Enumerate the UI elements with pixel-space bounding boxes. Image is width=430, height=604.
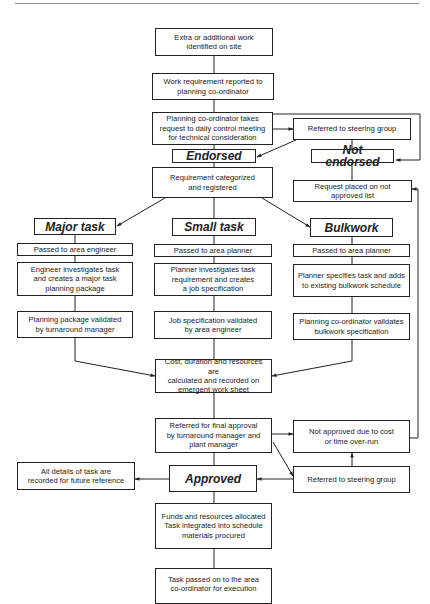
node-request-not-approved-list: Request placed on not approved list bbox=[293, 180, 412, 202]
node-referred-steering-top: Referred to steering group bbox=[293, 118, 411, 140]
node-passed-area-planner-small: Passed to area planner bbox=[154, 244, 272, 257]
node-planner-specifies: Planner specifies task and adds to exist… bbox=[293, 264, 410, 297]
node-planner-investigates: Planner investigates task requirement an… bbox=[154, 263, 272, 296]
node-extra-work: Extra or additional work identified on s… bbox=[155, 28, 273, 56]
node-passed-area-engineer: Passed to area engineer bbox=[17, 243, 133, 256]
node-not-endorsed: Not endorsed bbox=[311, 149, 394, 163]
node-work-requirement: Work requirement reported to planning co… bbox=[152, 73, 274, 100]
node-all-details-recorded: All details of task are recorded for fut… bbox=[17, 462, 135, 490]
arrow-bulk-validated-to-cost bbox=[272, 340, 352, 376]
node-referred-steering-bottom: Referred to steering group bbox=[293, 466, 410, 493]
node-job-spec-validated: Job specification validated by area engi… bbox=[154, 311, 272, 339]
arrow-final-to-steering-bottom bbox=[273, 442, 293, 476]
node-bulkwork: Bulkwork bbox=[310, 218, 393, 237]
arrow-requirement-to-bulkwork bbox=[262, 198, 310, 227]
node-approved: Approved bbox=[169, 465, 257, 492]
arrow-major-validated-to-cost bbox=[75, 338, 155, 376]
node-small-task: Small task bbox=[172, 218, 256, 236]
arrow-not-approved-to-request-list bbox=[410, 189, 418, 438]
node-not-approved-cost: Not approved due to cost or time over-ru… bbox=[293, 420, 410, 453]
node-cost-duration: Cost, duration and resources are calcula… bbox=[155, 359, 272, 393]
node-referred-final-approval: Referred for final approval by turnaroun… bbox=[155, 418, 272, 453]
node-funds-allocated: Funds and resources allocated Task integ… bbox=[155, 503, 272, 549]
node-passed-area-planner-bulk: Passed to area planner bbox=[293, 244, 410, 257]
node-planning-coordinator: Planning co-ordinator takes request to d… bbox=[152, 112, 273, 145]
node-planning-package-validated: Planning package validated by turnaround… bbox=[17, 311, 133, 338]
node-major-task: Major task bbox=[34, 218, 116, 235]
arrow-requirement-to-major bbox=[117, 198, 165, 226]
node-task-passed-execution: Task passed on to the area co-ordinator … bbox=[155, 568, 272, 604]
node-bulkwork-spec-validated: Planning co-ordinator validates bulkwork… bbox=[293, 313, 410, 340]
node-engineer-investigates: Engineer investigates task and creates a… bbox=[17, 262, 133, 296]
node-endorsed: Endorsed bbox=[172, 149, 256, 163]
node-requirement-categorized: Requirement categorized and registered bbox=[152, 167, 273, 198]
